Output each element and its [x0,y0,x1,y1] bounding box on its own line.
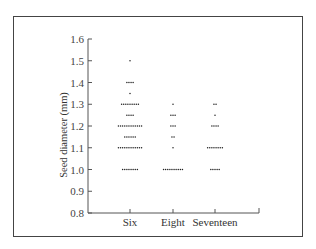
data-dot [209,147,211,149]
data-dot [220,147,222,149]
data-dot [128,114,130,116]
y-tick-label: 1.0 [70,164,84,176]
data-dot [132,114,134,116]
data-dot [120,125,122,127]
data-dot [163,169,165,171]
data-dot [126,82,128,84]
data-dot [132,147,134,149]
data-dot [213,147,215,149]
data-dot [129,60,131,62]
x-category-label: Eight [161,216,185,228]
data-dot [126,169,128,171]
y-tick-label: 1.5 [70,55,84,67]
data-dot [173,136,175,138]
data-dot [130,147,132,149]
data-dot [211,147,213,149]
data-dot [129,93,131,95]
dot-plot-chart: 0.80.91.01.11.21.31.41.51.6 SixEightSeve… [0,0,316,249]
data-dot [171,136,173,138]
data-dot [172,114,174,116]
y-tick-label: 0.9 [70,185,84,197]
data-dot [118,147,120,149]
y-axis-label: Seed diameter (mm) [58,92,70,178]
data-dot [141,147,143,149]
data-dot [215,104,217,106]
data-dot [175,169,177,171]
data-dot [165,169,167,171]
data-dot [132,125,134,127]
data-dot [130,114,132,116]
data-dot [126,136,128,138]
data-dot [217,147,219,149]
data-dot [215,147,217,149]
data-dot [218,169,220,171]
data-dot [170,125,172,127]
y-tick-label: 1.2 [70,120,84,132]
data-dot [210,169,212,171]
y-tick-label: 1.4 [70,77,84,89]
data-dot [217,125,219,127]
data-dot [135,169,137,171]
data-dot [169,169,171,171]
data-dot [215,125,217,127]
data-dot [120,147,122,149]
data-dot [137,125,139,127]
data-dots [118,60,223,170]
data-dot [172,104,174,106]
data-dot [124,147,126,149]
data-dot [171,169,173,171]
data-dot [128,125,130,127]
data-dot [132,169,134,171]
data-dot [174,114,176,116]
data-dot [121,104,123,106]
data-dot [170,114,172,116]
y-tick-label: 1.3 [70,98,84,110]
data-dot [128,136,130,138]
data-dot [135,125,137,127]
data-dot [126,125,128,127]
data-dot [138,104,140,106]
data-dot [180,169,182,171]
data-dot [167,169,169,171]
data-dot [178,169,180,171]
data-dot [130,125,132,127]
data-dot [213,104,215,106]
data-dot [126,114,128,116]
data-dot [222,147,224,149]
data-dot [133,104,135,106]
data-dot [123,104,125,106]
data-dot [136,104,138,106]
data-dot [130,169,132,171]
data-dot [173,169,175,171]
data-dot [135,136,137,138]
data-dot [132,82,134,84]
data-dot [130,136,132,138]
y-tick-label: 1.6 [70,33,84,45]
data-dot [124,169,126,171]
data-dot [118,125,120,127]
data-dot [128,147,130,149]
data-dot [129,104,131,106]
y-tick-label: 0.8 [70,207,84,219]
data-dot [214,169,216,171]
data-dot [128,82,130,84]
data-dot [141,125,143,127]
x-category-label: Six [123,216,138,228]
data-dot [122,147,124,149]
data-dot [125,104,127,106]
data-dot [172,147,174,149]
data-dot [212,169,214,171]
data-dot [174,125,176,127]
data-dot [211,125,213,127]
data-dot [122,125,124,127]
data-dot [213,125,215,127]
data-dot [128,169,130,171]
data-dot [122,169,124,171]
data-dot [124,125,126,127]
data-dot [124,136,126,138]
y-tick-labels: 0.80.91.01.11.21.31.41.51.6 [70,33,84,219]
data-dot [139,125,141,127]
data-dot [139,147,141,149]
data-dot [216,169,218,171]
y-tick-label: 1.1 [70,142,84,154]
